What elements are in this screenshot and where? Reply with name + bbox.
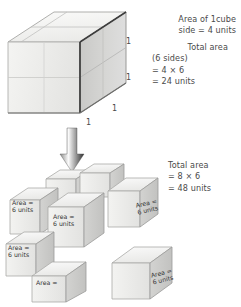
dimension-label-bottom-right: 1 [112,105,117,113]
text-line: (6 sides) [152,53,238,64]
text-line: side = 4 units [132,25,236,36]
text-area-of-one-cube: Area of 1cube side = 4 units [132,14,236,37]
dimension-label-right-upper: 1 [126,38,131,46]
small-cube-center-front [48,193,104,247]
text-line: = 4 × 6 [152,65,238,76]
text-line: = 24 units [152,76,238,87]
cube-left-face [8,42,80,113]
text-total-area-24: Total area (6 sides) = 4 × 6 = 24 units [152,42,238,88]
text-total-area-48: Total area = 8 × 6 = 48 units [168,160,240,194]
dimension-label-right-lower: 1 [126,74,131,82]
small-cube-right-upper [108,178,158,227]
text-line: Area of 1cube [132,14,236,25]
text-line: = 48 units [168,183,240,194]
dimension-label-bottom-front: 1 [86,119,91,127]
text-line: Total area [168,160,240,171]
text-line: = 8 × 6 [168,171,240,182]
small-cube-bottom-right-detached [112,247,198,307]
text-line: Total area [152,42,238,53]
